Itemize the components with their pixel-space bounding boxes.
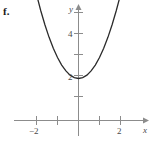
- coordinate-plot: −2 2 2 4 x y: [0, 0, 155, 152]
- y-tick-label-4: 4: [68, 29, 73, 39]
- parabola-curve: [35, 0, 119, 78]
- x-axis-arrow-icon: [143, 118, 149, 124]
- graph-figure: f. −2 2 2 4 x y: [0, 0, 155, 152]
- y-axis-label: y: [68, 4, 73, 14]
- x-axis-label: x: [142, 125, 147, 135]
- y-axis-arrow-icon: [76, 4, 82, 10]
- x-tick-label-pos2: 2: [117, 126, 122, 136]
- y-tick-label-2: 2: [68, 72, 73, 82]
- x-tick-label-neg2: −2: [29, 126, 39, 136]
